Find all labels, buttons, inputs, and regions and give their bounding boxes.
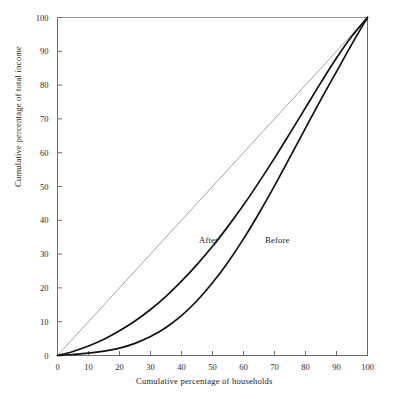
curve-label-after: After bbox=[199, 235, 218, 245]
plot-canvas bbox=[0, 0, 395, 399]
y-tick-label: 70 bbox=[0, 115, 49, 124]
x-tick-label: 70 bbox=[270, 363, 279, 372]
y-tick-label: 10 bbox=[0, 317, 49, 326]
y-tick-label: 0 bbox=[0, 351, 49, 360]
y-axis-title: Cumulative percentage of total income bbox=[13, 46, 23, 187]
y-tick-label: 30 bbox=[0, 250, 49, 259]
x-tick-label: 90 bbox=[332, 363, 341, 372]
x-tick-label: 80 bbox=[301, 363, 310, 372]
y-tick-label: 50 bbox=[0, 182, 49, 191]
x-tick-label: 30 bbox=[146, 363, 155, 372]
y-tick-label: 80 bbox=[0, 81, 49, 90]
x-tick-label: 60 bbox=[239, 363, 248, 372]
x-tick-label: 0 bbox=[55, 363, 59, 372]
y-tick-label: 20 bbox=[0, 284, 49, 293]
y-tick-label: 100 bbox=[0, 13, 49, 22]
x-tick-label: 100 bbox=[361, 363, 374, 372]
lorenz-curve-figure: 0102030405060708090100 01020304050607080… bbox=[0, 0, 395, 399]
x-tick-label: 50 bbox=[208, 363, 217, 372]
x-tick-label: 40 bbox=[177, 363, 186, 372]
data-series-group bbox=[58, 18, 368, 356]
y-tick-label: 40 bbox=[0, 216, 49, 225]
y-tick-label: 60 bbox=[0, 148, 49, 157]
y-tick-label: 90 bbox=[0, 47, 49, 56]
y-axis-ticks bbox=[58, 18, 63, 356]
curve-label-before: Before bbox=[265, 235, 290, 245]
x-tick-label: 10 bbox=[84, 363, 93, 372]
x-tick-label: 20 bbox=[115, 363, 124, 372]
x-axis-title: Cumulative percentage of households bbox=[136, 376, 273, 386]
series-curve-line-of-equality bbox=[58, 18, 368, 356]
